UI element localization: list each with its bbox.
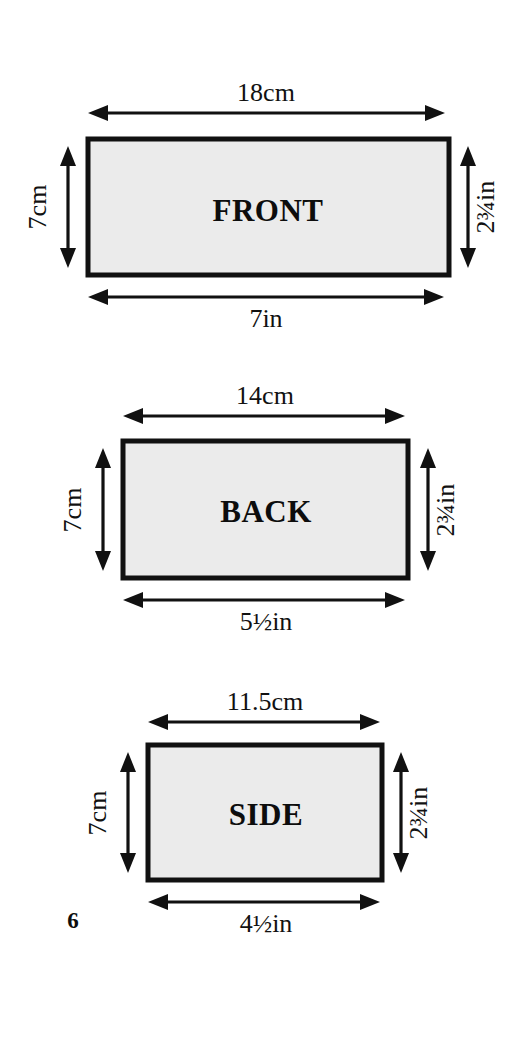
front-top-dimension-arrow [88, 105, 445, 121]
side-bottom-dimension-arrow [148, 894, 380, 910]
front-left-dimension-arrow [60, 146, 76, 268]
page-number: 6 [67, 908, 79, 933]
panel-front: 18cm FRONT 7cm 2¾in [23, 78, 500, 333]
side-bottom-dimension-label: 4½in [240, 909, 293, 938]
back-panel-face-label: BACK [220, 494, 312, 529]
back-top-dimension-arrow [123, 408, 405, 424]
back-right-dimension-label: 2¾in [431, 484, 460, 537]
front-bottom-dimension-arrow [88, 289, 444, 305]
front-right-dimension-label: 2¾in [471, 181, 500, 234]
front-left-dimension-label: 7cm [23, 185, 52, 230]
side-right-dimension-label: 2¾in [404, 787, 433, 840]
side-left-dimension-label: 7cm [83, 791, 112, 836]
front-panel-face-label: FRONT [213, 193, 324, 228]
back-bottom-dimension-arrow [123, 592, 405, 608]
back-top-dimension-label: 14cm [236, 381, 294, 410]
back-left-dimension-arrow [95, 448, 111, 571]
side-top-dimension-arrow [148, 714, 380, 730]
diagram-sheet: 18cm FRONT 7cm 2¾in [0, 0, 514, 1059]
side-top-dimension-label: 11.5cm [227, 687, 303, 716]
panel-back: 14cm BACK 7cm 2¾in [58, 381, 460, 636]
back-bottom-dimension-label: 5½in [240, 607, 293, 636]
panel-side: 11.5cm SIDE 7cm 2¾in [83, 687, 433, 938]
front-bottom-dimension-label: 7in [249, 304, 282, 333]
side-left-dimension-arrow [120, 752, 136, 873]
front-top-dimension-label: 18cm [237, 78, 295, 107]
side-panel-face-label: SIDE [229, 797, 303, 832]
panel-diagram-canvas: 18cm FRONT 7cm 2¾in [0, 0, 514, 1059]
back-left-dimension-label: 7cm [58, 488, 87, 533]
